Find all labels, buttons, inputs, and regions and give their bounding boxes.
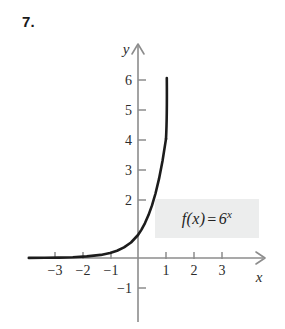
graph-plot: −3 −2 −1 1 2 3 6 5 4 3 2 −1 y x bbox=[0, 0, 285, 329]
y-axis-label: y bbox=[121, 41, 130, 57]
y-tick-label-4: 4 bbox=[125, 133, 132, 148]
formula-equals: = bbox=[205, 211, 218, 228]
function-curve bbox=[29, 139, 166, 258]
formula-argument: x bbox=[192, 211, 199, 228]
x-tick-label--1: −1 bbox=[104, 263, 119, 278]
formula-text: f(x)=6x bbox=[182, 208, 232, 228]
x-tick-label--2: −2 bbox=[76, 263, 91, 278]
function-curve-upper bbox=[166, 78, 167, 139]
x-tick-label-3: 3 bbox=[219, 263, 226, 278]
formula-function-name: f bbox=[182, 211, 187, 228]
y-tick-label-6: 6 bbox=[125, 73, 132, 88]
formula-base: 6 bbox=[219, 211, 227, 228]
formula-callout-box: f(x)=6x bbox=[155, 199, 259, 238]
x-tick-label--3: −3 bbox=[48, 263, 63, 278]
y-tick-label-3: 3 bbox=[125, 163, 132, 178]
y-tick-label--1: −1 bbox=[117, 281, 132, 296]
y-tick-label-5: 5 bbox=[125, 103, 132, 118]
formula-exponent: x bbox=[227, 208, 232, 220]
y-tick-label-2: 2 bbox=[125, 193, 132, 208]
x-axis-label: x bbox=[255, 269, 263, 285]
x-tick-label-2: 2 bbox=[191, 263, 198, 278]
x-tick-label-1: 1 bbox=[163, 263, 170, 278]
exercise-figure: 7. −3 −2 −1 1 2 3 6 5 bbox=[0, 0, 285, 329]
